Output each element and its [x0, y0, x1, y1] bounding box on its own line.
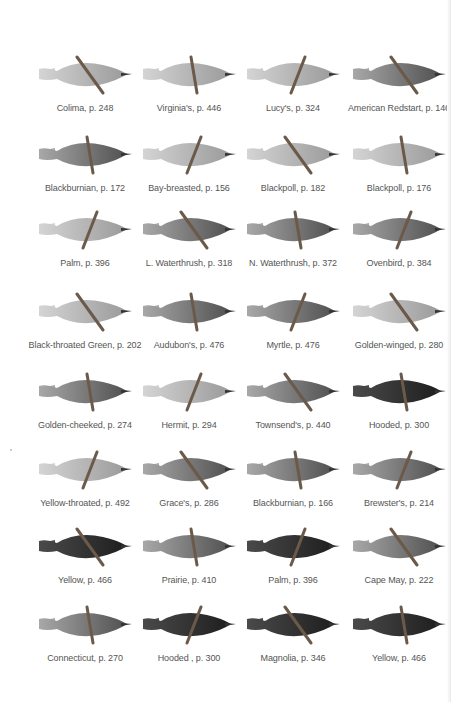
bird-specimen-cell: Connecticut, p. 270 — [29, 605, 141, 685]
bird-specimen-cell: Yellow, p. 466 — [343, 605, 451, 685]
bird-specimen-cell: American Redstart, p. 146 — [343, 55, 451, 135]
specimen-caption: Cape May, p. 222 — [333, 575, 451, 585]
bird-specimen-image — [245, 605, 341, 645]
specimen-caption: Blackpoll, p. 176 — [333, 183, 451, 193]
bird-specimen-image — [245, 210, 341, 250]
bird-specimen-image — [245, 135, 341, 175]
bird-specimen-image — [141, 605, 237, 645]
specimen-caption: Hooded, p. 300 — [333, 420, 451, 430]
bird-specimen-image — [245, 372, 341, 412]
bird-specimen-image — [351, 135, 447, 175]
bird-specimen-cell: Yellow-throated, p. 492 — [29, 450, 141, 530]
bird-specimen-cell: Hooded, p. 300 — [343, 372, 451, 452]
bird-specimen-cell: Lucy's, p. 324 — [237, 55, 349, 135]
bird-specimen-image — [351, 527, 447, 567]
bird-specimen-image — [141, 450, 237, 490]
bird-specimen-image — [37, 292, 133, 332]
bird-specimen-image — [141, 55, 237, 95]
bird-specimen-cell: Ovenbird, p. 384 — [343, 210, 451, 290]
bird-specimen-image — [141, 292, 237, 332]
bird-specimen-cell: Palm, p. 396 — [237, 527, 349, 607]
bird-specimen-image — [245, 292, 341, 332]
bird-specimen-cell: Blackburnian, p. 166 — [237, 450, 349, 530]
bird-specimen-cell: Myrtle, p. 476 — [237, 292, 349, 372]
bird-specimen-cell: Golden-winged, p. 280 — [343, 292, 451, 372]
bird-specimen-image — [37, 135, 133, 175]
bird-specimen-cell: Hermit, p. 294 — [133, 372, 245, 452]
bird-specimen-image — [351, 450, 447, 490]
bird-specimen-image — [37, 605, 133, 645]
bird-specimen-image — [37, 210, 133, 250]
bird-specimen-image — [37, 372, 133, 412]
specimen-caption: Golden-winged, p. 280 — [333, 340, 451, 350]
bird-specimen-image — [141, 372, 237, 412]
page-speck — [10, 449, 12, 451]
bird-specimen-image — [351, 372, 447, 412]
bird-specimen-cell: Palm, p. 396 — [29, 210, 141, 290]
bird-specimen-cell: Virginia's, p. 446 — [133, 55, 245, 135]
bird-specimen-cell: Brewster's, p. 214 — [343, 450, 451, 530]
bird-specimen-cell: Bay-breasted, p. 156 — [133, 135, 245, 215]
bird-specimen-image — [245, 55, 341, 95]
bird-specimen-cell: Blackburnian, p. 172 — [29, 135, 141, 215]
specimen-caption: Yellow, p. 466 — [333, 653, 451, 663]
bird-specimen-cell: Townsend's, p. 440 — [237, 372, 349, 452]
bird-specimen-cell: Audubon's, p. 476 — [133, 292, 245, 372]
bird-specimen-image — [141, 210, 237, 250]
bird-specimen-cell: Golden-cheeked, p. 274 — [29, 372, 141, 452]
bird-specimen-image — [351, 210, 447, 250]
bird-specimen-cell: Magnolia, p. 346 — [237, 605, 349, 685]
bird-specimen-cell: N. Waterthrush, p. 372 — [237, 210, 349, 290]
bird-specimen-cell: Blackpoll, p. 182 — [237, 135, 349, 215]
specimen-caption: Brewster's, p. 214 — [333, 498, 451, 508]
bird-specimen-cell: Grace's, p. 286 — [133, 450, 245, 530]
warbler-grid: Colima, p. 248Virginia's, p. 446Lucy's, … — [0, 0, 451, 702]
bird-specimen-image — [37, 450, 133, 490]
bird-specimen-image — [245, 527, 341, 567]
bird-specimen-cell: Cape May, p. 222 — [343, 527, 451, 607]
page-edge-shadow — [447, 0, 451, 702]
bird-specimen-image — [37, 527, 133, 567]
specimen-caption: Ovenbird, p. 384 — [333, 258, 451, 268]
bird-specimen-image — [351, 605, 447, 645]
bird-specimen-cell: Colima, p. 248 — [29, 55, 141, 135]
bird-specimen-image — [141, 135, 237, 175]
bird-specimen-image — [37, 55, 133, 95]
bird-specimen-cell: Hooded , p. 300 — [133, 605, 245, 685]
bird-specimen-cell: L. Waterthrush, p. 318 — [133, 210, 245, 290]
specimen-caption: American Redstart, p. 146 — [333, 103, 451, 113]
bird-specimen-image — [351, 55, 447, 95]
bird-specimen-cell: Prairie, p. 410 — [133, 527, 245, 607]
bird-specimen-cell: Yellow, p. 466 — [29, 527, 141, 607]
bird-specimen-image — [245, 450, 341, 490]
bird-specimen-cell: Black-throated Green, p. 202 — [29, 292, 141, 372]
bird-specimen-cell: Blackpoll, p. 176 — [343, 135, 451, 215]
bird-specimen-image — [351, 292, 447, 332]
bird-specimen-image — [141, 527, 237, 567]
